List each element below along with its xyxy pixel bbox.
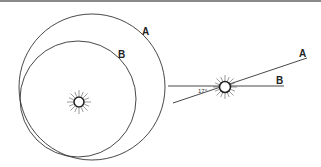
- inclination-angle-label: 17°: [198, 88, 208, 94]
- orbit-diagram: A B B A 17°: [0, 0, 321, 167]
- sun-icon: [213, 75, 237, 99]
- plane-a-line: [173, 58, 307, 103]
- plane-a-label: A: [299, 48, 306, 59]
- orbit-b-label: B: [118, 49, 125, 60]
- plane-b-label: B: [276, 75, 283, 86]
- sun-icon: [67, 90, 91, 114]
- orbit-a-label: A: [142, 26, 149, 37]
